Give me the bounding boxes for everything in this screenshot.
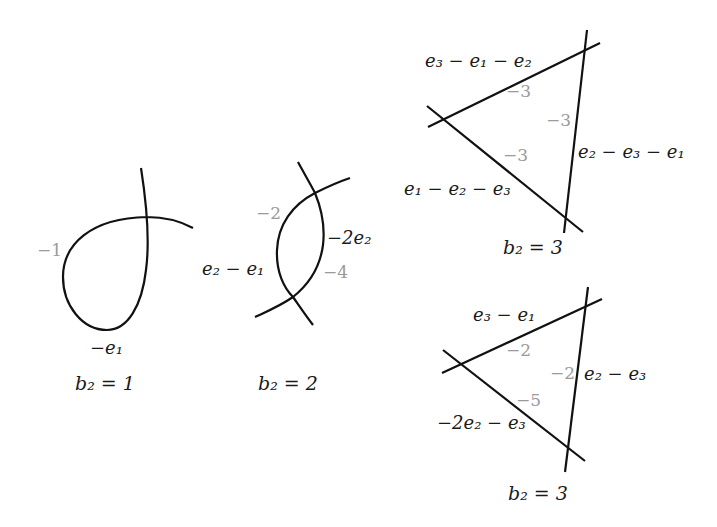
self-intersection-label: −1: [37, 242, 62, 259]
self-intersection-label: −5: [516, 392, 541, 409]
self-intersection-label: −2: [256, 205, 281, 222]
line-e2-e3-e1: [564, 30, 587, 233]
curve-label: −2e₂: [327, 229, 371, 247]
self-intersection-label: −3: [546, 112, 571, 129]
diagram-b2-1: [63, 168, 193, 330]
nodal-curve: [63, 168, 193, 330]
caption-b2-3-a: b₂ = 3: [503, 238, 563, 257]
curve-minus-2e2: [293, 162, 324, 325]
curve-label: e₂ − e₁: [202, 260, 264, 278]
curve-label: e₁ − e₂ − e₃: [404, 180, 511, 198]
caption-b2-1: b₂ = 1: [75, 374, 135, 393]
curve-label: e₃ − e₁: [473, 306, 535, 324]
self-intersection-label: −2: [550, 365, 575, 382]
curve-label: e₂ − e₃ − e₁: [578, 143, 685, 161]
curve-label: −2e₂ − e₃: [437, 414, 526, 432]
caption-b2-3-b: b₂ = 3: [508, 484, 568, 503]
curve-label: −e₁: [90, 339, 123, 357]
caption-b2-2: b₂ = 2: [258, 374, 318, 393]
self-intersection-label: −2: [506, 342, 531, 359]
diagram-canvas: [0, 0, 717, 527]
curve-label: e₃ − e₁ − e₂: [425, 52, 532, 70]
curve-label: e₂ − e₃: [584, 365, 646, 383]
self-intersection-label: −4: [323, 264, 348, 281]
self-intersection-label: −3: [503, 147, 528, 164]
self-intersection-label: −3: [506, 83, 531, 100]
